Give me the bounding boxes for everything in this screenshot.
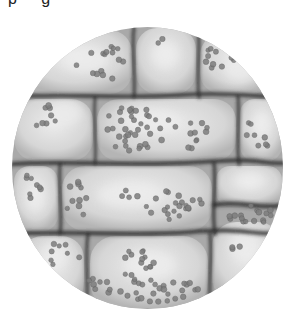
chloroplast	[176, 193, 182, 199]
chloroplast	[137, 146, 142, 151]
chloroplast	[159, 137, 165, 143]
chloroplast	[197, 197, 202, 202]
chloroplast	[185, 205, 191, 211]
chloroplast	[203, 59, 209, 65]
chloroplast	[57, 244, 61, 248]
chloroplast	[256, 143, 261, 148]
chloroplast	[123, 188, 128, 193]
chloroplast	[177, 214, 182, 219]
chloroplast	[65, 206, 70, 211]
chloroplast	[151, 291, 156, 296]
chloroplast	[158, 126, 163, 131]
chloroplast	[182, 281, 187, 286]
chloroplast	[149, 278, 154, 283]
chloroplast	[83, 195, 88, 200]
chloroplast	[127, 195, 132, 200]
cell-highlight	[224, 58, 256, 82]
chloroplast	[256, 209, 262, 215]
chloroplast	[227, 214, 232, 219]
chloroplast	[195, 286, 201, 292]
chloroplast	[140, 282, 145, 287]
chloroplast	[87, 278, 92, 283]
chloroplast	[67, 184, 73, 190]
chloroplast	[237, 244, 243, 250]
chloroplast	[123, 272, 128, 277]
chloroplast	[110, 126, 115, 131]
chloroplast	[244, 132, 249, 137]
chloroplast	[107, 287, 112, 292]
chloroplast	[104, 279, 110, 285]
chloroplast	[172, 209, 177, 214]
chloroplast	[225, 40, 230, 45]
chloroplast	[48, 113, 54, 119]
chloroplast	[173, 124, 178, 129]
chloroplast	[173, 296, 178, 301]
chloroplast	[53, 119, 58, 124]
chloroplast	[140, 249, 145, 254]
chloroplast	[125, 132, 131, 138]
cell-wall	[198, 27, 199, 97]
chloroplast	[249, 203, 254, 208]
chloroplast	[165, 212, 170, 217]
chloroplast	[40, 120, 46, 126]
chloroplast	[248, 122, 253, 127]
chloroplast	[144, 107, 149, 112]
chloroplast	[263, 142, 268, 147]
chloroplast	[192, 130, 197, 135]
chloroplast	[81, 212, 86, 217]
chloroplast	[243, 219, 248, 224]
chloroplast	[234, 50, 238, 54]
chloroplast	[156, 41, 161, 46]
chloroplast	[134, 290, 139, 295]
chloroplast	[160, 36, 166, 42]
chloroplast	[148, 210, 153, 215]
chloroplast	[27, 192, 32, 197]
cell-highlight	[152, 42, 178, 68]
chloroplast	[77, 255, 82, 260]
chloroplast	[268, 213, 273, 218]
chloroplast	[90, 71, 95, 76]
chloroplast	[171, 280, 177, 286]
chloroplast	[251, 218, 257, 224]
chloroplast	[100, 72, 106, 78]
chloroplast	[77, 197, 83, 203]
chloroplast	[127, 249, 132, 254]
cell-wall	[238, 97, 239, 164]
chloroplast	[161, 286, 167, 292]
chloroplast	[126, 148, 132, 154]
chloroplast	[70, 198, 75, 203]
chloroplast	[34, 123, 39, 128]
chloroplast	[142, 141, 148, 147]
chloroplast	[46, 103, 52, 109]
chloroplast	[144, 204, 149, 209]
chloroplast	[51, 241, 57, 247]
chloroplast	[98, 280, 103, 285]
chloroplast	[132, 277, 137, 282]
chloroplast	[166, 292, 171, 297]
chloroplast	[145, 125, 150, 130]
chloroplast	[190, 198, 195, 203]
chloroplast	[252, 133, 257, 138]
chloroplast	[147, 131, 153, 137]
chloroplast	[104, 49, 109, 54]
chloroplast	[116, 57, 122, 63]
chloroplast	[118, 118, 124, 124]
chloroplast	[49, 258, 54, 263]
chloroplast	[123, 143, 128, 148]
chloroplast	[119, 193, 124, 198]
chloroplast	[153, 282, 158, 287]
chloroplast	[51, 262, 56, 267]
cell-wall	[214, 164, 215, 234]
chloroplast	[163, 189, 168, 194]
chloroplast	[173, 201, 178, 206]
chloroplast	[135, 193, 141, 199]
chloroplast	[76, 203, 82, 209]
chloroplast	[116, 46, 121, 51]
chloroplast	[74, 63, 79, 68]
chloroplast	[132, 132, 138, 138]
chloroplast	[210, 61, 216, 67]
chloroplast	[165, 298, 170, 303]
chloroplast	[110, 50, 115, 55]
microscope-field	[0, 0, 298, 313]
chloroplast	[123, 138, 128, 143]
